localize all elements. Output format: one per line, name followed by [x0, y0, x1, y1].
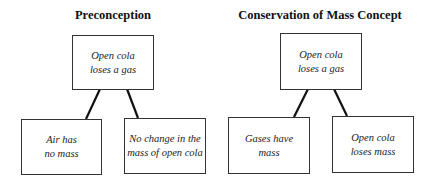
child-node-no-change-in-mass: No change in themass of open cola — [124, 118, 206, 174]
connector-line — [294, 89, 308, 117]
node-text-line: mass — [258, 147, 279, 158]
node-text-line: Open cola — [351, 132, 394, 143]
node-text-line: Open cola — [299, 49, 342, 60]
node-text-line: Air has — [46, 134, 77, 145]
connector-line — [127, 89, 138, 118]
child-node-gases-have-mass: Gases havemass — [228, 117, 310, 174]
node-text-line: loses a gas — [90, 64, 136, 75]
child-node-air-has-no-mass: Air hasno mass — [21, 119, 102, 175]
child-node-open-cola-loses-mass: Open colaloses mass — [332, 116, 414, 173]
root-node-preconception: Open colaloses a gas — [72, 35, 154, 90]
node-text-line: mass of open cola — [127, 147, 203, 158]
node-text-line: loses mass — [351, 146, 396, 157]
connector-line — [334, 89, 347, 116]
node-text-line: Gases have — [245, 133, 293, 144]
root-node-conservation: Open colaloses a gas — [280, 33, 362, 90]
node-text-line: No change in the — [129, 133, 200, 144]
node-text-line: Open cola — [91, 50, 134, 61]
node-text-line: no mass — [44, 148, 78, 159]
diagram-title-preconception: Preconception — [53, 8, 173, 23]
connector-line — [86, 89, 100, 119]
node-text-line: loses a gas — [298, 63, 344, 74]
diagram-title-conservation-of-mass: Conservation of Mass Concept — [235, 8, 405, 23]
